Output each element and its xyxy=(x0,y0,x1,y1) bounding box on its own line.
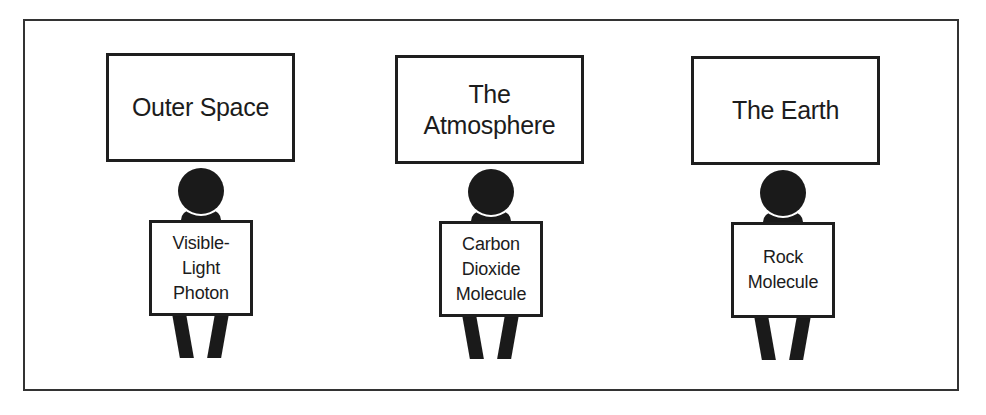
location-box-outer-space: Outer Space xyxy=(106,53,295,162)
location-label: The Atmosphere xyxy=(424,79,556,141)
figure-left-leg-icon xyxy=(754,316,776,360)
figure-head-icon xyxy=(760,170,806,216)
stick-figure-photon: Visible- Light Photon xyxy=(149,168,253,368)
location-box-earth: The Earth xyxy=(691,56,880,165)
location-box-atmosphere: The Atmosphere xyxy=(395,55,584,164)
location-label: Outer Space xyxy=(132,92,269,123)
figure-right-leg-icon xyxy=(789,316,811,360)
role-sign-rock-molecule: Rock Molecule xyxy=(731,222,835,318)
figure-head-icon xyxy=(468,169,514,215)
stick-figure-rock-molecule: Rock Molecule xyxy=(731,170,835,370)
stick-figure-carbon-dioxide: Carbon Dioxide Molecule xyxy=(439,169,543,369)
location-label: The Earth xyxy=(732,95,839,126)
role-label: Carbon Dioxide Molecule xyxy=(456,232,526,307)
figure-head-icon xyxy=(178,168,224,214)
role-label: Rock Molecule xyxy=(748,245,818,295)
figure-right-leg-icon xyxy=(207,314,229,358)
role-sign-carbon-dioxide: Carbon Dioxide Molecule xyxy=(439,221,543,317)
figure-right-leg-icon xyxy=(497,315,519,359)
figure-left-leg-icon xyxy=(462,315,484,359)
role-label: Visible- Light Photon xyxy=(172,231,229,306)
role-sign-photon: Visible- Light Photon xyxy=(149,220,253,316)
figure-left-leg-icon xyxy=(172,314,194,358)
